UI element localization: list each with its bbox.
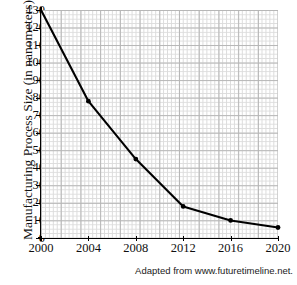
x-tick-label: 2000 bbox=[16, 241, 66, 256]
source-caption: Adapted from www.futuretimeline.net. bbox=[0, 265, 293, 276]
series-line bbox=[41, 10, 278, 227]
plot-area bbox=[41, 10, 278, 238]
x-tick-mark bbox=[41, 236, 42, 241]
x-tick-label: 2008 bbox=[111, 241, 161, 256]
data-series bbox=[41, 10, 278, 238]
data-point bbox=[133, 157, 138, 162]
x-tick-mark bbox=[183, 236, 184, 241]
data-point bbox=[276, 225, 281, 230]
x-tick-label: 2020 bbox=[253, 241, 297, 256]
x-tick-label: 2004 bbox=[63, 241, 113, 256]
x-tick-mark bbox=[231, 236, 232, 241]
chart-figure: Manufacturing Process Size (in nanometer… bbox=[0, 0, 297, 285]
series-markers bbox=[86, 99, 280, 230]
x-tick-mark bbox=[278, 236, 279, 241]
data-point bbox=[228, 218, 233, 223]
data-point bbox=[181, 204, 186, 209]
x-tick-mark bbox=[136, 236, 137, 241]
x-tick-mark bbox=[88, 236, 89, 241]
data-point bbox=[86, 99, 91, 104]
x-tick-label: 2012 bbox=[158, 241, 208, 256]
x-tick-label: 2016 bbox=[206, 241, 256, 256]
